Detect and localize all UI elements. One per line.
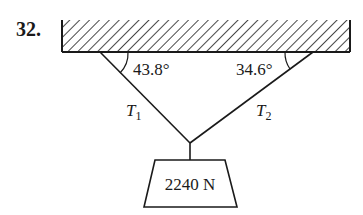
angle-label-right: 34.6°: [236, 60, 273, 79]
weight-label: 2240 N: [165, 175, 216, 194]
angle-arc-left: [120, 52, 128, 73]
angle-label-left: 43.8°: [133, 60, 170, 79]
problem-number: 32.: [16, 18, 41, 40]
angle-arc-right: [285, 52, 290, 69]
tension-diagram: 32. 43.8° 34.6° T1 T2 2240 N: [0, 0, 363, 215]
tension-label-right: T2: [256, 101, 271, 123]
tension-label-left: T1: [126, 101, 141, 123]
ceiling: [62, 20, 350, 52]
